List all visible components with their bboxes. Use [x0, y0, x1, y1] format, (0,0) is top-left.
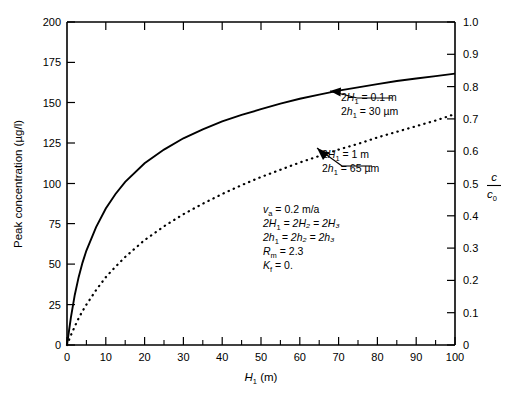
annot-upper-value2: = 30 µm	[357, 105, 399, 117]
y-right-tick-label: 0.4	[463, 210, 478, 222]
svg-text:2H1 = 0.1 m: 2H1 = 0.1 m	[341, 91, 397, 106]
param-rest-0: = 0.2 m/a	[272, 203, 319, 215]
param-rest-4: = 0.	[272, 259, 293, 271]
svg-text:Kf = 0.: Kf = 0.	[263, 259, 293, 274]
x-tick-label: 50	[255, 351, 267, 363]
y-right-tick-label: 0.9	[463, 48, 478, 60]
x-tick-label: 40	[216, 351, 228, 363]
y-right-tick-label: 0	[463, 339, 469, 351]
y-right-tick-label: 1.0	[463, 16, 478, 28]
param-rest-2: = 2h₂ = 2h₃	[279, 231, 334, 243]
plot-frame	[67, 22, 455, 345]
svg-text:c0: c0	[487, 188, 497, 203]
x-tick-label: 60	[294, 351, 306, 363]
x-tick-label: 90	[410, 351, 422, 363]
y-right-tick-label: 0.3	[463, 242, 478, 254]
y-axis-right-ticks	[447, 22, 455, 345]
x-tick-label: 70	[332, 351, 344, 363]
y-axis-right-tick-labels: 0 0.1 0.2 0.3 0.4 0.5 0.6 0.7 0.8 0.9 1.…	[463, 16, 478, 351]
annot-upper-value: = 0.1 m	[359, 91, 397, 103]
svg-text:H1 (m): H1 (m)	[245, 371, 278, 386]
x-tick-label: 100	[446, 351, 464, 363]
x-axis-title-unit: (m)	[257, 371, 278, 383]
y-tick-label: 0	[55, 339, 61, 351]
svg-text:2H1 = 2H₂ = 2H₃: 2H1 = 2H₂ = 2H₃	[262, 217, 340, 232]
svg-text:2h1 = 65 µm: 2h1 = 65 µm	[322, 162, 379, 177]
x-tick-label: 20	[138, 351, 150, 363]
x-axis-title: H1 (m)	[245, 371, 278, 386]
param-rest-1: = 2H₂ = 2H₃	[281, 217, 340, 229]
y-right-tick-label: 0.6	[463, 145, 478, 157]
y-tick-label: 200	[43, 16, 61, 28]
y-tick-label: 100	[43, 178, 61, 190]
x-tick-label: 80	[371, 351, 383, 363]
y-tick-label: 175	[43, 56, 61, 68]
param-var-2: 2h	[262, 231, 275, 243]
y-axis-left-tick-labels: 0 25 50 75 100 125 150 175 200	[43, 16, 61, 351]
svg-text:2h1 = 2h₂ = 2h₃: 2h1 = 2h₂ = 2h₃	[262, 231, 334, 246]
param-rest-3: = 2.3	[277, 245, 304, 257]
y-axis-left-title-text: Peak concentration (µg/l)	[12, 120, 24, 248]
x-axis-top-ticks	[106, 22, 416, 30]
x-tick-label: 10	[100, 351, 112, 363]
y-right-tick-label: 0.2	[463, 274, 478, 286]
annot-lower-value2: = 65 µm	[338, 162, 380, 174]
x-axis-tick-labels: 0 10 20 30 40 50 60 70 80 90 100	[64, 351, 464, 363]
y-right-tick-label: 0.7	[463, 113, 478, 125]
y-tick-label: 50	[49, 258, 61, 270]
x-tick-label: 0	[64, 351, 70, 363]
y-tick-label: 75	[49, 218, 61, 230]
figure-container: 0 10 20 30 40 50 60 70 80 90 100 H1 (m)	[0, 0, 515, 402]
svg-text:2h1 = 30 µm: 2h1 = 30 µm	[341, 105, 398, 120]
y-axis-right-title: c c0	[487, 171, 501, 203]
y-right-tick-label: 0.8	[463, 81, 478, 93]
param-var-1: 2H	[262, 217, 277, 229]
curve-dotted-lower	[67, 114, 455, 345]
peak-concentration-chart: 0 10 20 30 40 50 60 70 80 90 100 H1 (m)	[0, 0, 515, 402]
y-tick-label: 150	[43, 97, 61, 109]
y-right-title-numerator: c	[491, 171, 497, 183]
y-right-title-denominator-sub: 0	[493, 194, 497, 203]
svg-text:Rm = 2.3: Rm = 2.3	[263, 245, 304, 260]
y-tick-label: 25	[49, 299, 61, 311]
x-tick-label: 30	[177, 351, 189, 363]
parameter-block: va = 0.2 m/a 2H1 = 2H₂ = 2H₃ 2h1 = 2h₂ =…	[262, 203, 340, 274]
y-right-tick-label: 0.1	[463, 307, 478, 319]
annotation-lower: 2H1 = 1 m 2h1 = 65 µm	[322, 148, 379, 177]
y-tick-label: 125	[43, 137, 61, 149]
svg-text:va = 0.2 m/a: va = 0.2 m/a	[263, 203, 320, 218]
y-axis-left-title: Peak concentration (µg/l)	[12, 120, 24, 248]
y-right-tick-label: 0.5	[463, 178, 478, 190]
annot-lower-value: = 1 m	[340, 148, 370, 160]
annotation-upper: 2H1 = 0.1 m 2h1 = 30 µm	[341, 91, 398, 120]
svg-text:2H1 = 1 m: 2H1 = 1 m	[322, 148, 369, 163]
